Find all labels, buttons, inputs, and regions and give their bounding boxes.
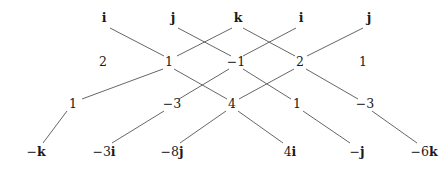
node-b1: −3i	[92, 146, 115, 159]
node-t2: k	[234, 12, 243, 25]
node-unit: k	[37, 144, 46, 159]
node-unit: j	[360, 144, 365, 159]
node-coefficient: −	[26, 144, 36, 159]
node-u4: 1	[359, 56, 367, 69]
node-t1: j	[171, 12, 176, 25]
node-b3: 4i	[284, 146, 297, 159]
node-u1: 1	[165, 56, 173, 69]
node-coefficient: −8	[161, 144, 179, 159]
node-t3: i	[299, 12, 304, 25]
node-layer: ijkij21−1211−341−3−k−3i−8j4i−j−6k	[0, 0, 448, 170]
node-unit: k	[429, 144, 438, 159]
lattice-diagram: ijkij21−1211−341−3−k−3i−8j4i−j−6k	[0, 0, 448, 170]
node-u2: −1	[227, 56, 245, 69]
node-coefficient: 4	[284, 144, 292, 159]
node-l0: 1	[69, 98, 77, 111]
node-coefficient: −	[349, 144, 359, 159]
node-l3: 1	[293, 98, 301, 111]
node-l4: −3	[356, 98, 374, 111]
node-t0: i	[102, 12, 107, 25]
node-coefficient: −6	[410, 144, 428, 159]
node-unit: i	[292, 144, 297, 159]
node-b0: −k	[26, 146, 45, 159]
node-b4: −j	[349, 146, 364, 159]
node-coefficient: −3	[92, 144, 110, 159]
node-unit: j	[179, 144, 184, 159]
node-t4: j	[367, 12, 372, 25]
node-b2: −8j	[161, 146, 184, 159]
node-b5: −6k	[410, 146, 437, 159]
node-u0: 2	[99, 56, 107, 69]
node-l1: −3	[163, 98, 181, 111]
node-l2: 4	[228, 98, 236, 111]
node-u3: 2	[296, 56, 304, 69]
node-unit: i	[111, 144, 116, 159]
